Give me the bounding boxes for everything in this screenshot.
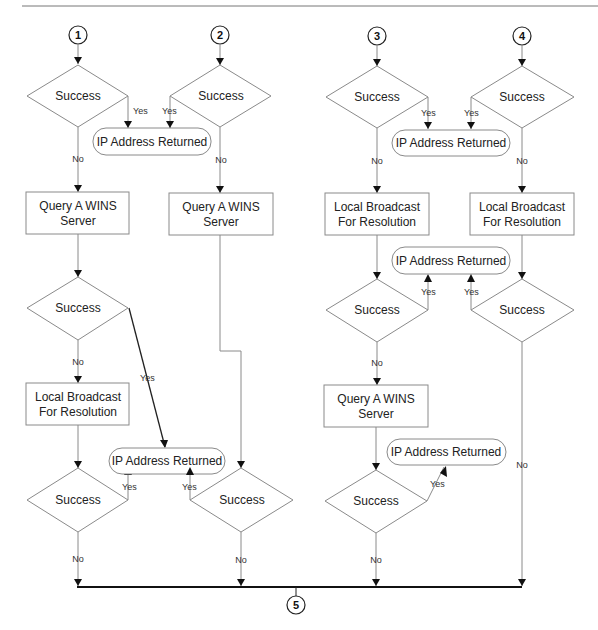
svg-text:No: No — [72, 357, 84, 367]
svg-text:Server: Server — [358, 407, 393, 421]
svg-text:2: 2 — [217, 29, 223, 41]
svg-text:Query A WINS: Query A WINS — [337, 392, 414, 406]
svg-text:4: 4 — [519, 30, 526, 42]
svg-text:Query A WINS: Query A WINS — [39, 199, 116, 213]
svg-text:Success: Success — [354, 90, 399, 104]
svg-text:No: No — [371, 358, 383, 368]
svg-text:Server: Server — [203, 215, 238, 229]
svg-text:IP Address Returned: IP Address Returned — [112, 454, 223, 468]
svg-text:No: No — [516, 156, 528, 166]
column-4: 4 Success Yes No Local Broadcast For Res… — [464, 27, 574, 586]
svg-text:No: No — [72, 154, 84, 164]
svg-text:5: 5 — [293, 599, 299, 611]
svg-text:Server: Server — [60, 214, 95, 228]
svg-text:Success: Success — [353, 494, 398, 508]
svg-text:Yes: Yes — [430, 479, 445, 489]
svg-text:No: No — [235, 555, 247, 565]
svg-text:Local Broadcast: Local Broadcast — [35, 390, 122, 404]
svg-text:For Resolution: For Resolution — [39, 405, 117, 419]
svg-text:Yes: Yes — [421, 287, 436, 297]
svg-text:Local Broadcast: Local Broadcast — [334, 200, 421, 214]
svg-text:Success: Success — [55, 89, 100, 103]
svg-text:Yes: Yes — [182, 482, 197, 492]
svg-text:Yes: Yes — [421, 108, 436, 118]
svg-text:IP Address Returned: IP Address Returned — [97, 135, 208, 149]
svg-text:Success: Success — [219, 493, 264, 507]
svg-text:Success: Success — [499, 303, 544, 317]
svg-text:Yes: Yes — [464, 108, 479, 118]
svg-text:For Resolution: For Resolution — [338, 215, 416, 229]
svg-text:Success: Success — [354, 303, 399, 317]
column-2: 2 Success Yes No Query A WINS Server Suc… — [162, 26, 293, 586]
svg-text:Success: Success — [499, 90, 544, 104]
svg-text:No: No — [371, 156, 383, 166]
svg-text:No: No — [516, 460, 528, 470]
svg-text:IP Address Returned: IP Address Returned — [396, 136, 507, 150]
svg-text:Success: Success — [198, 89, 243, 103]
svg-text:IP Address Returned: IP Address Returned — [391, 445, 502, 459]
svg-text:Query A WINS: Query A WINS — [182, 200, 259, 214]
column-3: 3 Success Yes No Local Broadcast For Res… — [324, 27, 447, 586]
svg-text:For Resolution: For Resolution — [483, 215, 561, 229]
svg-text:No: No — [72, 554, 84, 564]
svg-text:3: 3 — [374, 30, 380, 42]
svg-text:No: No — [370, 555, 382, 565]
svg-text:No: No — [215, 155, 227, 165]
svg-text:IP Address Returned: IP Address Returned — [396, 254, 507, 268]
svg-text:Yes: Yes — [140, 373, 155, 383]
svg-text:Success: Success — [55, 493, 100, 507]
column-1: 1 Success Yes No Query A WINS Server Suc… — [26, 26, 168, 586]
svg-text:Yes: Yes — [464, 287, 479, 297]
svg-text:Local Broadcast: Local Broadcast — [479, 200, 566, 214]
svg-text:Success: Success — [55, 301, 100, 315]
svg-text:1: 1 — [75, 29, 81, 41]
svg-text:Yes: Yes — [162, 106, 177, 116]
svg-text:Yes: Yes — [133, 106, 148, 116]
flowchart: 1 Success Yes No Query A WINS Server Suc… — [0, 0, 598, 630]
svg-text:Yes: Yes — [122, 482, 137, 492]
